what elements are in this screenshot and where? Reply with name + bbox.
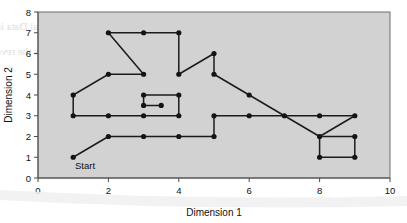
data-point-marker [71, 92, 76, 97]
data-point-marker [247, 113, 252, 118]
y-tick-label: 6 [26, 48, 31, 59]
data-point-marker [176, 92, 181, 97]
data-point-marker [141, 113, 146, 118]
x-tick-label: 6 [247, 185, 252, 196]
data-point-marker [141, 72, 146, 77]
y-tick-label: 5 [26, 69, 31, 80]
data-point-marker [282, 113, 287, 118]
start-label: Start [75, 160, 95, 171]
chart-figure: Essential Data into functionsof a Chart … [0, 0, 407, 223]
data-point-marker [141, 30, 146, 35]
data-point-marker [71, 113, 76, 118]
plot-area-background [38, 12, 390, 178]
x-tick-label: 4 [176, 185, 181, 196]
chart-canvas: Essential Data into functionsof a Chart … [0, 0, 407, 223]
y-tick-label: 2 [26, 131, 31, 142]
annotation-group: Start [75, 160, 95, 171]
data-point-marker [106, 113, 111, 118]
data-point-marker [211, 72, 216, 77]
y-tick-label: 0 [26, 173, 31, 184]
y-tick-label: 7 [26, 27, 31, 38]
data-point-marker [106, 30, 111, 35]
data-point-marker [211, 51, 216, 56]
data-point-marker [317, 113, 322, 118]
data-point-marker [317, 134, 322, 139]
data-point-marker [247, 92, 252, 97]
data-point-marker [176, 113, 181, 118]
x-axis-title: Dimension 1 [186, 207, 242, 218]
data-point-marker [106, 134, 111, 139]
data-point-marker [176, 134, 181, 139]
data-point-marker [352, 113, 357, 118]
data-point-marker [352, 134, 357, 139]
y-axis-title: Dimension 2 [3, 67, 14, 123]
data-point-marker [176, 30, 181, 35]
data-point-marker [211, 134, 216, 139]
data-point-marker [106, 72, 111, 77]
data-point-marker [159, 103, 164, 108]
y-tick-label: 4 [26, 90, 31, 101]
data-point-marker [176, 72, 181, 77]
data-point-marker [211, 113, 216, 118]
y-tick-label: 8 [26, 7, 31, 18]
x-tick-label: 2 [106, 185, 111, 196]
y-tick-label: 1 [26, 152, 31, 163]
data-point-marker [141, 134, 146, 139]
data-point-marker [141, 103, 146, 108]
x-tick-label: 10 [385, 185, 396, 196]
data-point-marker [141, 92, 146, 97]
y-tick-label: 3 [26, 110, 31, 121]
data-point-marker [317, 155, 322, 160]
data-point-marker [352, 155, 357, 160]
x-tick-label: 8 [317, 185, 322, 196]
